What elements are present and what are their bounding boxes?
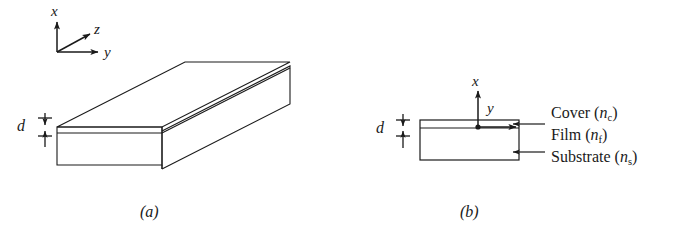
z-axis-label-a: z xyxy=(94,22,100,37)
substrate-index-subscript: s xyxy=(628,156,632,167)
substrate-layer-name: Substrate xyxy=(551,148,611,165)
cover-index-paren-close: ) xyxy=(612,104,617,121)
y-axis-label-a: y xyxy=(104,45,111,60)
caption-b: (b) xyxy=(460,204,479,220)
origin-dot-b xyxy=(475,124,480,129)
film-index-paren-close: ) xyxy=(602,126,607,143)
cover-layer-label: Cover (nc) xyxy=(551,105,617,121)
film-index-subscript: f xyxy=(599,134,603,145)
film-index-symbol: n xyxy=(591,126,599,143)
panel-b-cross-section xyxy=(420,120,519,160)
thickness-label-b: d xyxy=(376,120,384,136)
thickness-label-a: d xyxy=(17,118,25,134)
film-index-paren-open: ( xyxy=(581,126,590,143)
slab-top-face xyxy=(57,62,290,127)
substrate-index-symbol: n xyxy=(620,148,628,165)
panel-a-slab xyxy=(57,62,290,169)
film-layer-name: Film xyxy=(551,126,581,143)
panel-a-axes xyxy=(57,22,98,52)
cover-layer-name: Cover xyxy=(551,104,590,121)
cover-index-subscript: c xyxy=(607,112,612,123)
x-axis-label-a: x xyxy=(51,4,58,19)
z-axis-arrow-a xyxy=(57,34,90,52)
substrate-index-paren-close: ) xyxy=(632,148,637,165)
film-interface-side xyxy=(162,68,290,133)
panel-a-thickness-marker xyxy=(38,113,52,147)
panel-b-thickness-marker xyxy=(396,114,410,148)
panel-b-axes xyxy=(475,91,516,130)
x-axis-label-b: x xyxy=(472,74,479,89)
waveguide-rectangle xyxy=(420,120,519,160)
film-layer-label: Film (nf) xyxy=(551,127,607,143)
substrate-index-paren-open: ( xyxy=(611,148,620,165)
substrate-layer-label: Substrate (ns) xyxy=(551,149,637,165)
figure-root: x z y d (a) x y d (b) Cover (nc) Film (n… xyxy=(0,0,679,240)
y-axis-label-b: y xyxy=(487,101,494,116)
caption-a: (a) xyxy=(140,204,159,220)
